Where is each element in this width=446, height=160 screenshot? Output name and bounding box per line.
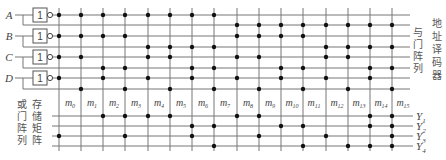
- gate-symbol: 1: [37, 73, 43, 84]
- and-connection-dot: [390, 66, 394, 70]
- and-connection-dot: [368, 23, 372, 27]
- address-decoder-label: 地: [432, 17, 442, 29]
- and-connection-dot: [101, 13, 105, 17]
- and-array-label: 列: [413, 62, 423, 74]
- and-connection-dot: [257, 55, 261, 59]
- address-decoder-label: 码: [432, 57, 442, 68]
- and-connection-dot: [301, 87, 305, 91]
- input-label-a: A: [5, 9, 13, 21]
- and-connection-dot: [79, 13, 83, 17]
- or-connection-dot: [123, 114, 127, 118]
- and-connection-dot: [390, 45, 394, 49]
- and-connection-dot: [346, 87, 350, 91]
- or-array-label: 或: [17, 99, 27, 110]
- or-connection-dot: [301, 144, 305, 148]
- and-connection-dot: [368, 45, 372, 49]
- and-connection-dot: [324, 55, 328, 59]
- and-connection-dot: [324, 45, 328, 49]
- minterm-label-m7: m7: [220, 97, 231, 109]
- or-connection-dot: [368, 114, 372, 118]
- and-connection-dot: [168, 45, 172, 49]
- and-connection-dot: [123, 13, 127, 17]
- and-connection-dot: [146, 13, 150, 17]
- and-connection-dot: [212, 66, 216, 70]
- labels: ABCDY1Y2Y3Y4m0m1m2m3m4m5m6m7m8m9m10m11m1…: [4, 9, 442, 155]
- and-connection-dot: [123, 66, 127, 70]
- and-connection-dot: [346, 55, 350, 59]
- or-connection-dot: [301, 124, 305, 128]
- and-connection-dot: [168, 87, 172, 91]
- and-connection-dot: [368, 76, 372, 80]
- or-connection-dot: [390, 124, 394, 128]
- or-connection-dot: [168, 114, 172, 118]
- or-connection-dot: [257, 134, 261, 138]
- and-connection-dot: [279, 66, 283, 70]
- minterm-label-m12: m12: [330, 97, 343, 109]
- and-connection-dot: [390, 23, 394, 27]
- and-connection-dot: [279, 76, 283, 80]
- and-connection-dot: [257, 87, 261, 91]
- rom-diagram: 1111 ABCDY1Y2Y3Y4m0m1m2m3m4m5m6m7m8m9m10…: [0, 0, 446, 160]
- or-array-label: 列: [17, 134, 27, 146]
- and-connection-dot: [279, 34, 283, 38]
- and-connection-dot: [346, 45, 350, 49]
- or-array-label: 门: [17, 110, 27, 122]
- and-connection-dot: [190, 45, 194, 49]
- or-connection-dot: [368, 144, 372, 148]
- and-connection-dot: [390, 87, 394, 91]
- connection-dots: [57, 13, 394, 148]
- minterm-label-m4: m4: [154, 97, 164, 109]
- address-decoder-label: 器: [432, 70, 442, 81]
- and-connection-dot: [57, 76, 61, 80]
- minterm-label-m15: m15: [396, 97, 409, 109]
- storage-matrix-label: 矩: [32, 122, 42, 134]
- minterm-label-m0: m0: [65, 97, 75, 109]
- or-connection-dot: [390, 134, 394, 138]
- and-array-label: 门: [413, 38, 423, 50]
- and-connection-dot: [235, 55, 239, 59]
- and-connection-dot: [146, 76, 150, 80]
- address-decoder-label: 址: [432, 30, 442, 42]
- minterm-label-m13: m13: [352, 97, 365, 109]
- minterm-label-m9: m9: [265, 97, 275, 109]
- and-connection-dot: [190, 66, 194, 70]
- and-connection-dot: [146, 45, 150, 49]
- storage-matrix-label: 存: [32, 98, 42, 110]
- inversion-bubble-icon: [47, 54, 52, 59]
- wires: [15, 8, 413, 151]
- rom-circuit-svg: 1111 ABCDY1Y2Y3Y4m0m1m2m3m4m5m6m7m8m9m10…: [0, 0, 446, 160]
- and-connection-dot: [190, 13, 194, 17]
- and-connection-dot: [146, 55, 150, 59]
- input-label-c: C: [5, 51, 13, 63]
- minterm-label-m2: m2: [109, 97, 119, 109]
- or-connection-dot: [57, 134, 61, 138]
- minterm-label-m14: m14: [374, 97, 387, 109]
- or-connection-dot: [346, 144, 350, 148]
- and-connection-dot: [123, 34, 127, 38]
- and-connection-dot: [57, 13, 61, 17]
- or-array-label: 阵: [17, 122, 27, 134]
- and-connection-dot: [257, 34, 261, 38]
- and-connection-dot: [257, 23, 261, 27]
- and-connection-dot: [57, 34, 61, 38]
- storage-matrix-label: 储: [32, 110, 42, 122]
- minterm-label-m3: m3: [131, 97, 141, 109]
- or-connection-dot: [257, 114, 261, 118]
- gate-symbol: 1: [37, 10, 43, 21]
- or-connection-dot: [390, 114, 394, 118]
- and-connection-dot: [212, 87, 216, 91]
- or-connection-dot: [190, 134, 194, 138]
- and-connection-dot: [123, 87, 127, 91]
- and-connection-dot: [212, 13, 216, 17]
- or-connection-dot: [190, 124, 194, 128]
- and-connection-dot: [235, 34, 239, 38]
- input-label-d: D: [4, 72, 13, 84]
- and-array-label: 与: [413, 27, 423, 38]
- minterm-label-m11: m11: [308, 97, 321, 109]
- minterm-label-m1: m1: [87, 97, 97, 109]
- and-connection-dot: [235, 23, 239, 27]
- or-connection-dot: [390, 144, 394, 148]
- and-connection-dot: [301, 23, 305, 27]
- and-connection-dot: [279, 23, 283, 27]
- minterm-label-m8: m8: [243, 97, 253, 109]
